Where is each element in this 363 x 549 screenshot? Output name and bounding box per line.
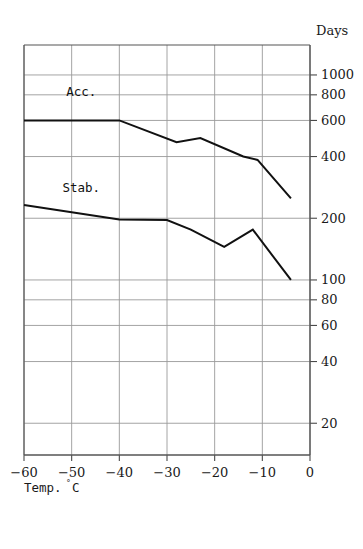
x-axis-tick-labels: −60−50−40−30−20−100 — [10, 465, 314, 480]
y-axis-tick-labels: 100080060040020010080604020 — [321, 67, 354, 430]
y-tick-label: 100 — [321, 272, 346, 287]
x-axis-ticks — [24, 455, 310, 461]
y-tick-label: 80 — [321, 292, 338, 307]
x-tick-label: −20 — [201, 465, 228, 480]
y-tick-label: 60 — [321, 318, 338, 333]
line-chart: 100080060040020010080604020 −60−50−40−30… — [0, 0, 363, 549]
y-tick-label: 1000 — [321, 67, 354, 82]
y-axis-ticks — [310, 75, 317, 423]
y-tick-label: 400 — [321, 149, 346, 164]
series-label-acc: Acc. — [66, 84, 96, 99]
degree-icon: ° — [66, 479, 71, 488]
x-tick-label: −40 — [106, 465, 133, 480]
series-label-stab: Stab. — [62, 180, 100, 195]
y-tick-label: 40 — [321, 354, 338, 369]
y-tick-label: 20 — [321, 416, 338, 431]
x-tick-label: −10 — [249, 465, 276, 480]
x-axis-title-main: Temp. — [24, 480, 62, 495]
x-tick-label: −60 — [10, 465, 37, 480]
x-axis-title-unit-tail: C — [72, 480, 80, 495]
x-tick-label: −50 — [58, 465, 85, 480]
x-tick-label: 0 — [306, 465, 314, 480]
y-tick-label: 600 — [321, 113, 346, 128]
x-axis-title: Temp. ° C — [24, 479, 80, 495]
y-tick-label: 800 — [321, 87, 346, 102]
chart-container: 100080060040020010080604020 −60−50−40−30… — [0, 0, 363, 549]
y-axis-title: Days — [316, 23, 348, 38]
x-tick-label: −30 — [153, 465, 180, 480]
y-tick-label: 200 — [321, 211, 346, 226]
